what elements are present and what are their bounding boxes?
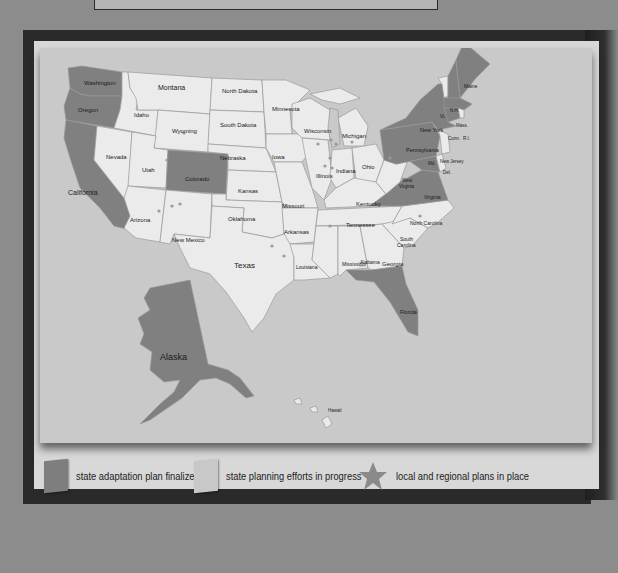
star-icon <box>358 461 388 491</box>
label-virginia: Virginia <box>424 194 441 200</box>
star-icon <box>388 156 391 159</box>
state-michigan-up <box>310 88 360 104</box>
label-wisconsin: Wisconsin <box>304 128 331 134</box>
label-alabama: Alabama <box>360 259 380 265</box>
state-michigan <box>338 108 368 146</box>
state-hawaii <box>322 416 332 428</box>
label-north-dakota: North Dakota <box>222 88 258 94</box>
label-colorado: Colorado <box>185 176 210 182</box>
state-florida <box>346 266 418 336</box>
light-square-swatch-icon <box>194 459 218 494</box>
label-maine: Maine <box>464 83 478 89</box>
legend-label-in-progress: state planning efforts in progress <box>226 470 361 482</box>
star-icon <box>418 214 421 217</box>
star-icon <box>323 164 326 167</box>
label-montana: Montana <box>158 84 185 91</box>
label-california: California <box>68 189 98 196</box>
label-vermont: Vt. <box>440 114 446 119</box>
state-arizona <box>124 186 166 242</box>
label-new-jersey: New Jersey <box>440 159 464 164</box>
label-new-mexico: New Mexico <box>172 237 205 243</box>
state-arkansas <box>282 208 318 244</box>
state-south-dakota <box>208 110 266 148</box>
star-icon <box>334 142 337 145</box>
hawaii-island-2 <box>310 406 318 412</box>
label-connecticut: Conn. <box>448 136 460 141</box>
label-west-virginia-2: Virginia <box>399 184 414 189</box>
state-colorado <box>166 150 228 194</box>
label-arkansas: Arkansas <box>284 229 309 235</box>
label-washington: Washington <box>84 80 115 86</box>
label-massachusetts: Mass. <box>456 123 468 128</box>
star-icon <box>330 166 333 169</box>
label-idaho: Idaho <box>134 112 150 118</box>
label-alaska: Alaska <box>160 352 187 362</box>
star-icon <box>350 140 353 143</box>
label-kansas: Kansas <box>238 188 258 194</box>
star-icon <box>270 244 273 247</box>
hawaii-island-3 <box>294 398 302 404</box>
legend-label-finalized: state adaptation plan finalized <box>76 470 200 482</box>
state-montana <box>128 72 212 114</box>
state-kansas <box>226 170 282 202</box>
legend-item-local-plans: local and regional plans in place <box>358 456 553 496</box>
legend-item-in-progress: state planning efforts in progress <box>194 456 385 496</box>
label-arizona: Arizona <box>130 217 151 223</box>
label-minnesota: Minnesota <box>272 106 300 112</box>
state-north-dakota <box>210 78 264 112</box>
label-delaware: Del. <box>443 170 451 175</box>
label-wyoming: Wyoming <box>172 128 197 134</box>
star-icon <box>170 204 173 207</box>
label-oklahoma: Oklahoma <box>228 216 256 222</box>
label-florida: Florida <box>400 309 418 315</box>
legend: state adaptation plan finalized state pl… <box>40 456 592 496</box>
star-icon <box>328 224 331 227</box>
label-west-virginia-1: West <box>402 178 413 183</box>
star-icon <box>328 156 331 159</box>
label-utah: Utah <box>142 167 155 173</box>
star-icon <box>282 254 285 257</box>
star-icon <box>178 202 181 205</box>
label-louisiana: Louisiana <box>296 264 318 270</box>
label-north-carolina: North Carolina <box>410 220 442 226</box>
label-illinois: Illinois <box>316 173 333 179</box>
label-south-dakota: South Dakota <box>220 122 257 128</box>
label-oregon: Oregon <box>78 107 98 113</box>
label-new-york: New York <box>420 127 443 133</box>
us-map: Washington Oregon California Idaho Nevad… <box>40 48 592 443</box>
label-kentucky: Kentucky <box>356 201 381 207</box>
label-tennessee: Tennessee <box>346 222 376 228</box>
label-nevada: Nevada <box>106 154 127 160</box>
label-new-hampshire: N.H. <box>450 108 459 113</box>
star-icon <box>157 209 160 212</box>
label-michigan: Michigan <box>342 133 366 139</box>
star-icon <box>165 158 168 161</box>
state-new-jersey <box>438 130 450 154</box>
label-georgia: Georgia <box>382 261 404 267</box>
label-indiana: Indiana <box>336 168 356 174</box>
star-icon <box>316 142 319 145</box>
label-south-carolina-2: Carolina <box>397 242 416 248</box>
label-nebraska: Nebraska <box>220 155 246 161</box>
label-rhode-island: R.I. <box>463 136 470 141</box>
label-texas: Texas <box>234 261 255 270</box>
dark-square-swatch-icon <box>44 459 68 494</box>
label-pennsylvania: Pennsylvania <box>406 147 440 153</box>
top-caption-box <box>94 0 438 10</box>
star-icon <box>329 138 332 141</box>
label-maryland: Md. <box>428 161 436 166</box>
state-maine <box>456 48 490 98</box>
legend-label-local-plans: local and regional plans in place <box>396 470 529 482</box>
label-hawaii: Hawaii <box>328 408 342 413</box>
label-missouri: Missouri <box>282 203 304 209</box>
label-iowa: Iowa <box>272 154 285 160</box>
label-ohio: Ohio <box>362 164 375 170</box>
